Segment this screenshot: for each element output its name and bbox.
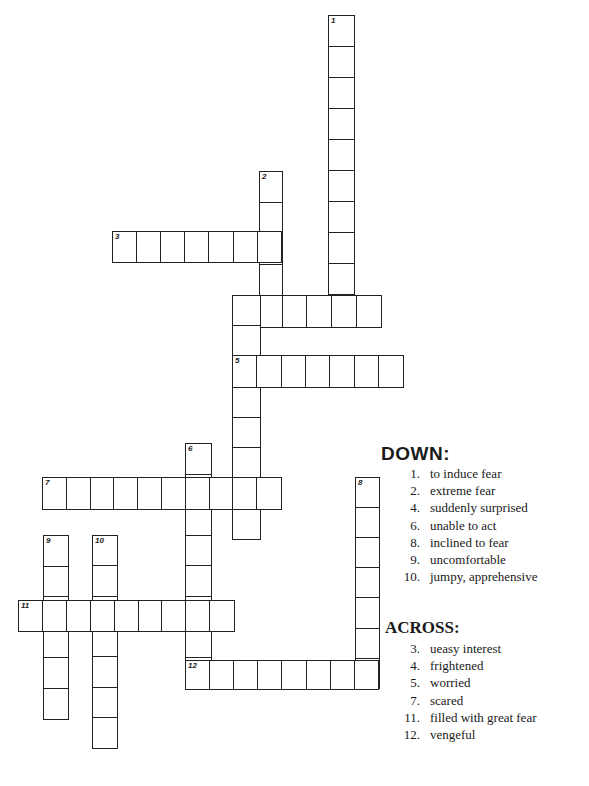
crossword-cell[interactable] xyxy=(233,231,259,263)
clue-number: 8. xyxy=(394,535,420,551)
crossword-cell[interactable] xyxy=(328,46,355,79)
clue-text: frightened xyxy=(430,658,483,673)
crossword-grid: 123456789101112 xyxy=(0,0,589,786)
crossword-cell[interactable] xyxy=(209,477,234,510)
crossword-cell[interactable] xyxy=(355,537,380,569)
crossword-cell[interactable] xyxy=(232,386,261,418)
crossword-cell[interactable] xyxy=(184,231,210,263)
crossword-cell[interactable] xyxy=(355,507,380,539)
crossword-cell[interactable] xyxy=(209,600,235,632)
crossword-cell[interactable] xyxy=(306,295,332,328)
crossword-cell[interactable] xyxy=(328,201,355,234)
crossword-cell[interactable]: 9 xyxy=(43,535,69,567)
crossword-cell[interactable] xyxy=(305,355,331,388)
clue-number: 3. xyxy=(394,641,420,657)
crossword-cell[interactable] xyxy=(328,139,355,172)
crossword-cell[interactable] xyxy=(66,477,91,510)
down-clue: 9.uncomfortable xyxy=(394,552,506,568)
crossword-cell[interactable] xyxy=(138,600,164,632)
crossword-cell[interactable] xyxy=(43,657,69,689)
crossword-cell[interactable] xyxy=(328,263,355,296)
clue-number: 5. xyxy=(394,675,420,691)
clue-number: 9. xyxy=(394,552,420,568)
crossword-cell[interactable] xyxy=(257,660,283,690)
crossword-cell[interactable] xyxy=(328,108,355,141)
crossword-cell[interactable] xyxy=(378,355,404,388)
crossword-cell[interactable] xyxy=(256,477,281,510)
crossword-cell[interactable] xyxy=(281,355,307,388)
crossword-cell[interactable] xyxy=(259,264,283,297)
crossword-cell[interactable] xyxy=(136,231,162,263)
crossword-cell[interactable] xyxy=(330,660,356,690)
crossword-cell[interactable] xyxy=(256,355,282,388)
crossword-cell[interactable] xyxy=(355,628,380,660)
crossword-cell[interactable] xyxy=(257,295,283,328)
crossword-cell[interactable] xyxy=(92,687,118,719)
crossword-cell[interactable] xyxy=(161,477,186,510)
clue-number: 11. xyxy=(394,710,420,726)
clue-number: 5 xyxy=(235,356,239,366)
crossword-cell[interactable] xyxy=(113,477,138,510)
crossword-cell[interactable] xyxy=(328,232,355,265)
crossword-cell[interactable] xyxy=(232,417,261,449)
crossword-cell[interactable] xyxy=(356,295,382,328)
crossword-cell[interactable] xyxy=(90,477,115,510)
crossword-cell[interactable] xyxy=(232,325,261,357)
crossword-cell[interactable] xyxy=(329,355,355,388)
crossword-cell[interactable] xyxy=(137,477,162,510)
down-clue: 1.to induce fear xyxy=(394,466,501,482)
crossword-cell[interactable] xyxy=(92,565,118,597)
crossword-cell[interactable] xyxy=(160,231,186,263)
crossword-cell[interactable] xyxy=(43,688,69,720)
crossword-cell[interactable]: 11 xyxy=(18,600,44,632)
crossword-cell[interactable] xyxy=(185,535,212,567)
crossword-cell[interactable] xyxy=(161,600,187,632)
crossword-cell[interactable]: 3 xyxy=(112,231,138,263)
crossword-cell[interactable] xyxy=(259,202,283,235)
clue-number: 12. xyxy=(394,727,420,743)
crossword-cell[interactable] xyxy=(328,170,355,203)
crossword-cell[interactable] xyxy=(232,447,261,479)
crossword-cell[interactable] xyxy=(354,660,380,690)
crossword-cell[interactable] xyxy=(185,477,210,510)
clue-number: 6. xyxy=(394,518,420,534)
crossword-cell[interactable] xyxy=(208,231,234,263)
clue-text: inclined to fear xyxy=(430,535,509,550)
crossword-cell[interactable] xyxy=(232,508,261,540)
clue-number: 10 xyxy=(95,536,104,546)
crossword-cell[interactable] xyxy=(232,295,261,327)
crossword-cell[interactable]: 6 xyxy=(185,443,212,475)
crossword-cell[interactable]: 12 xyxy=(185,660,211,690)
clue-text: worried xyxy=(430,675,470,690)
crossword-cell[interactable] xyxy=(328,77,355,110)
clue-number: 7 xyxy=(45,478,49,488)
crossword-cell[interactable] xyxy=(331,295,357,328)
crossword-cell[interactable]: 1 xyxy=(328,15,355,48)
crossword-cell[interactable] xyxy=(92,717,118,749)
crossword-cell[interactable]: 10 xyxy=(92,535,118,567)
crossword-cell[interactable]: 5 xyxy=(232,355,258,388)
crossword-cell[interactable] xyxy=(354,355,380,388)
crossword-cell[interactable] xyxy=(43,566,69,598)
crossword-cell[interactable] xyxy=(209,660,235,690)
crossword-cell[interactable]: 8 xyxy=(355,477,380,509)
crossword-cell[interactable] xyxy=(114,600,140,632)
clue-number: 2 xyxy=(262,172,266,182)
crossword-cell[interactable] xyxy=(233,660,259,690)
crossword-cell[interactable] xyxy=(185,565,212,597)
crossword-cell[interactable] xyxy=(257,231,283,263)
crossword-cell[interactable] xyxy=(66,600,92,632)
crossword-cell[interactable] xyxy=(185,600,211,632)
crossword-cell[interactable] xyxy=(355,597,380,629)
crossword-cell[interactable] xyxy=(90,600,116,632)
clue-number: 1. xyxy=(394,466,420,482)
crossword-cell[interactable] xyxy=(92,656,118,688)
crossword-cell[interactable] xyxy=(282,295,308,328)
crossword-cell[interactable] xyxy=(281,660,307,690)
crossword-cell[interactable] xyxy=(42,600,68,632)
crossword-cell[interactable]: 2 xyxy=(259,171,283,204)
crossword-cell[interactable] xyxy=(355,567,380,599)
crossword-cell[interactable]: 7 xyxy=(42,477,67,510)
crossword-cell[interactable] xyxy=(232,477,257,510)
crossword-cell[interactable] xyxy=(306,660,332,690)
